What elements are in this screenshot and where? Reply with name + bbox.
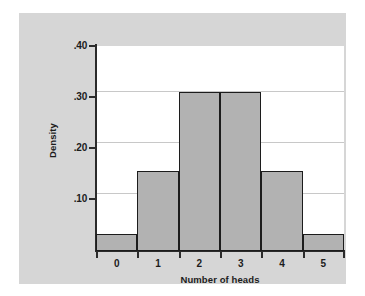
bar-0 [96, 234, 137, 251]
bar-5 [303, 234, 344, 251]
y-tick-label-040: .40 [61, 40, 87, 51]
x-axis-title: Number of heads [96, 274, 344, 285]
chart-panel: .40 .30 .20 .10 0 1 2 3 4 5 Number of he… [19, 13, 346, 284]
bar-2 [179, 92, 220, 251]
y-tick-label-010: .10 [61, 193, 87, 204]
x-tick-label-0: 0 [107, 258, 127, 269]
y-tick-040 [89, 45, 96, 47]
y-tick-label-010-wrap: .10 [59, 193, 87, 205]
y-tick-010 [89, 198, 96, 200]
x-tick-edge-3 [220, 252, 222, 258]
x-tick-edge-2 [179, 252, 181, 258]
bar-3 [220, 92, 261, 251]
y-tick-label-020-wrap: .20 [59, 142, 87, 154]
x-tick-label-1: 1 [148, 258, 168, 269]
x-tick-edge-6 [343, 252, 345, 258]
bar-1 [137, 171, 178, 251]
y-tick-label-030-wrap: .30 [59, 91, 87, 103]
y-tick-label-020: .20 [61, 142, 87, 153]
x-tick-label-3: 3 [231, 258, 251, 269]
bar-4 [261, 171, 302, 251]
x-tick-edge-0 [96, 252, 98, 258]
x-tick-edge-1 [137, 252, 139, 258]
y-tick-label-030: .30 [61, 91, 87, 102]
x-tick-label-4: 4 [272, 258, 292, 269]
x-tick-label-5: 5 [313, 258, 333, 269]
x-tick-edge-5 [303, 252, 305, 258]
y-axis-title: Density [47, 106, 58, 176]
y-tick-030 [89, 96, 96, 98]
y-tick-label-040-wrap: .40 [59, 40, 87, 52]
x-tick-label-2: 2 [189, 258, 209, 269]
histogram-figure: .40 .30 .20 .10 0 1 2 3 4 5 Number of he… [0, 0, 365, 296]
x-tick-edge-4 [261, 252, 263, 258]
y-tick-020 [89, 147, 96, 149]
